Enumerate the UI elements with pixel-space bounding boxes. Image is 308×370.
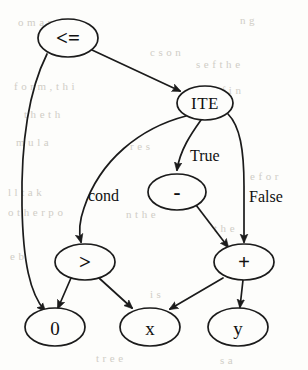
expression-dag-graph: <=ITE->+0xy TruecondFalse — [0, 0, 308, 370]
node-x[interactable]: x — [120, 308, 180, 346]
node-plus[interactable]: + — [214, 244, 274, 280]
node-label-minus: - — [174, 180, 181, 204]
edge-minus-to-plus — [196, 205, 228, 247]
node-label-le: <= — [56, 26, 80, 50]
edge-gt-to-x — [99, 278, 132, 308]
node-y[interactable]: y — [208, 308, 268, 346]
figure-canvas: o m a n sn gc s o ns e f t h ef o r m , … — [0, 0, 308, 370]
node-label-plus: + — [238, 250, 250, 274]
node-le[interactable]: <= — [38, 19, 98, 57]
edge-ite-to-plus — [228, 114, 244, 242]
node-gt[interactable]: > — [55, 244, 115, 280]
edge-le-to-zero — [22, 54, 47, 311]
node-label-x: x — [145, 318, 155, 339]
node-zero[interactable]: 0 — [25, 308, 85, 346]
node-label-zero: 0 — [50, 318, 60, 339]
edge-le-to-ite — [92, 50, 180, 91]
node-label-ite: ITE — [191, 94, 219, 113]
edge-label-false: False — [249, 188, 283, 205]
edge-plus-to-y — [240, 280, 243, 307]
node-label-y: y — [233, 318, 243, 339]
edge-gt-to-zero — [58, 278, 71, 308]
edge-plus-to-x — [170, 278, 223, 309]
edge-label-true: True — [190, 147, 220, 164]
edge-label-cond: cond — [88, 187, 119, 204]
node-ite[interactable]: ITE — [177, 86, 233, 120]
node-label-gt: > — [79, 250, 91, 274]
node-minus[interactable]: - — [148, 174, 206, 210]
